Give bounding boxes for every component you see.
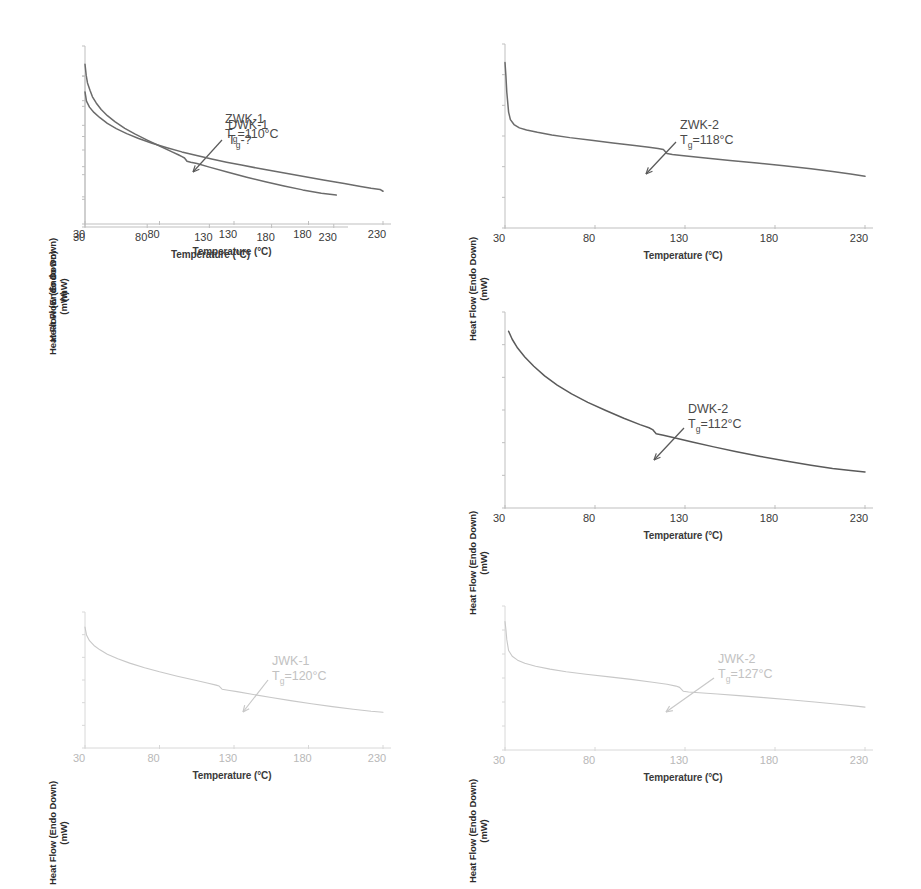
x-tick-label: 230 <box>844 754 874 766</box>
x-tick-label: 130 <box>664 754 694 766</box>
y-axis-title-line2: (mW) <box>478 756 489 889</box>
tg-value: Tg=127°C <box>718 667 773 687</box>
x-tick-label: 30 <box>484 754 514 766</box>
y-axis-title: Heat Flow (Endo Down)(mW) <box>467 756 489 889</box>
sample-annotation: JWK-2Tg=127°C <box>718 652 773 687</box>
x-tick-label: 180 <box>754 754 784 766</box>
tg-pointer-arrow <box>656 668 724 722</box>
x-tick-label: 80 <box>574 754 604 766</box>
tg-number: =127°C <box>730 667 772 681</box>
x-axis-title: Temperature (°C) <box>499 772 867 783</box>
y-axis-title-line1: Heat Flow (Endo Down) <box>467 756 478 889</box>
sample-name: JWK-2 <box>718 652 773 667</box>
